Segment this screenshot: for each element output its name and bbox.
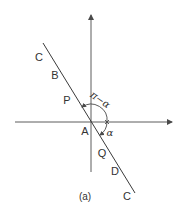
point-label-q: Q: [98, 148, 107, 159]
diagram-canvas: [0, 0, 184, 213]
diagram-figure: C B P A Q D C π−α α (a): [0, 0, 184, 213]
point-label-b: B: [51, 70, 58, 81]
point-label-c-bottom: C: [123, 191, 131, 202]
point-label-a: A: [81, 126, 88, 137]
point-label-p: P: [63, 95, 70, 106]
line-c-c: [43, 43, 135, 193]
point-label-d: D: [111, 166, 119, 177]
angle-label-alpha: α: [107, 128, 114, 138]
point-label-c-top: C: [35, 52, 43, 63]
figure-caption: (a): [79, 192, 91, 202]
